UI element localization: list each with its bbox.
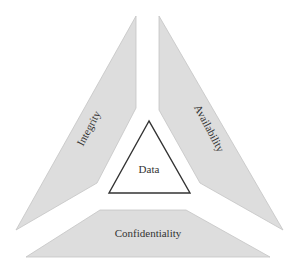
segment-integrity: Integrity <box>16 16 136 230</box>
segment-confidentiality-label: Confidentiality <box>115 227 182 239</box>
cia-triad-diagram: Integrity Availability Confidentiality D… <box>0 0 300 275</box>
segment-availability: Availability <box>159 16 283 230</box>
center-data-label: Data <box>139 163 160 175</box>
segment-confidentiality: Confidentiality <box>26 210 270 257</box>
